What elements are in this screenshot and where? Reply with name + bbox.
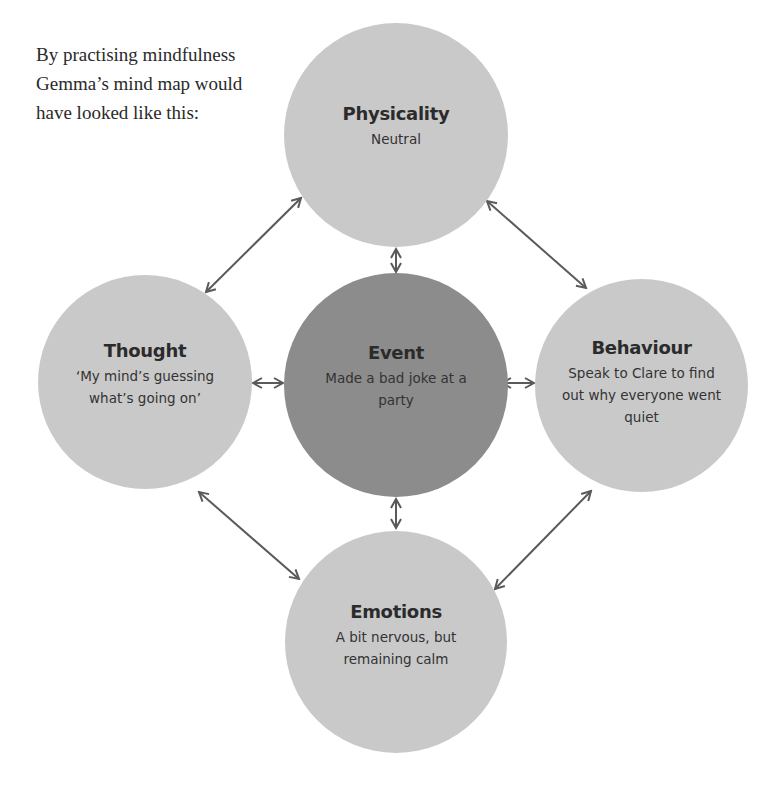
arrow-thought-emotions bbox=[199, 492, 299, 579]
node-behaviour: Behaviour Speak to Clare to find out why… bbox=[535, 279, 748, 492]
arrow-thought-physicality bbox=[206, 198, 301, 292]
node-description: Speak to Clare to find out why everyone … bbox=[557, 362, 726, 428]
arrow-physicality-behaviour bbox=[487, 201, 586, 288]
node-description: Made a bad joke at a party bbox=[318, 367, 474, 411]
node-thought: Thought ‘My mind’s guessing what’s going… bbox=[38, 275, 252, 489]
node-physicality: Physicality Neutral bbox=[284, 23, 508, 247]
arrow-behaviour-emotions bbox=[495, 491, 591, 589]
node-title: Thought bbox=[104, 340, 186, 361]
node-title: Event bbox=[368, 342, 424, 363]
node-title: Behaviour bbox=[591, 337, 691, 358]
node-event: Event Made a bad joke at a party bbox=[284, 273, 508, 497]
node-description: Neutral bbox=[371, 128, 421, 150]
node-description: A bit nervous, but remaining calm bbox=[325, 626, 467, 670]
node-title: Physicality bbox=[343, 103, 450, 124]
node-description: ‘My mind’s guessing what’s going on’ bbox=[60, 365, 230, 409]
node-title: Emotions bbox=[350, 601, 442, 622]
node-emotions: Emotions A bit nervous, but remaining ca… bbox=[285, 531, 507, 753]
